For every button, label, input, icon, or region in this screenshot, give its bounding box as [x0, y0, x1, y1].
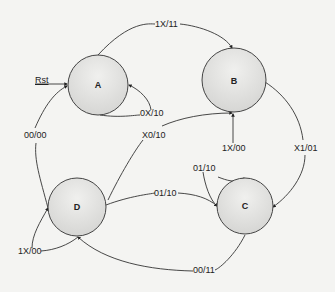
reset-label: Rst — [35, 75, 49, 85]
edge-d-c — [106, 193, 155, 205]
edge-d-a — [35, 86, 67, 128]
edge-d-d — [32, 208, 48, 248]
state-a-label: A — [95, 80, 102, 90]
edge-label-d-d: 1X/00 — [18, 246, 42, 256]
state-c-label: C — [242, 201, 249, 211]
edge-c-d — [215, 235, 245, 270]
state-d-label: D — [74, 202, 81, 212]
diagram-canvas — [0, 0, 335, 292]
edge-label-c-c: 01/10 — [193, 163, 216, 173]
edge-label-c-d: 00/11 — [193, 265, 215, 275]
edge-a-a — [100, 115, 140, 116]
edge-label-c-b: 1X/00 — [222, 143, 246, 153]
edge-label-d-b: X0/10 — [142, 130, 166, 140]
edge-label-d-c: 01/10 — [154, 188, 177, 198]
edge-label-a-a: 0X/10 — [140, 108, 164, 118]
edge-label-b-c: X1/01 — [294, 143, 318, 153]
state-diagram: A B C D Rst 1X/11 0X/10 00/00 X0/10 1X/0… — [0, 0, 335, 292]
edge-b-c — [265, 82, 303, 140]
edge-label-a-b: 1X/11 — [155, 19, 178, 29]
edge-d-b — [108, 140, 143, 200]
state-b-label: B — [231, 76, 238, 86]
edge-label-d-a: 00/00 — [24, 130, 47, 140]
edge-a-b — [98, 24, 155, 55]
